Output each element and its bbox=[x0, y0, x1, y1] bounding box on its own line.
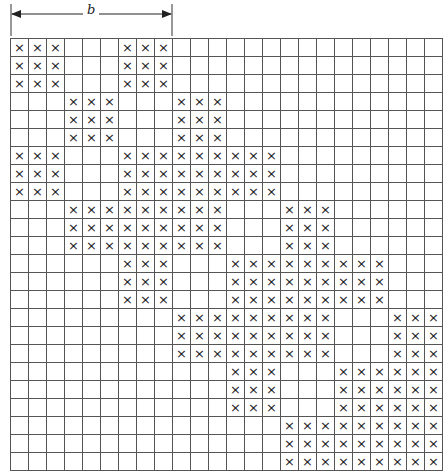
nonzero-cell: × bbox=[425, 363, 443, 381]
nonzero-cell: × bbox=[65, 219, 83, 237]
empty-cell bbox=[371, 39, 389, 57]
empty-cell bbox=[389, 273, 407, 291]
nonzero-cell: × bbox=[119, 291, 137, 309]
empty-cell bbox=[101, 453, 119, 471]
empty-cell bbox=[11, 399, 29, 417]
nonzero-cell: × bbox=[245, 309, 263, 327]
nonzero-cell: × bbox=[137, 183, 155, 201]
grid-row: ×××××××××××× bbox=[11, 291, 443, 309]
nonzero-cell: × bbox=[137, 291, 155, 309]
nonzero-cell: × bbox=[209, 93, 227, 111]
nonzero-cell: × bbox=[245, 381, 263, 399]
empty-cell bbox=[353, 39, 371, 57]
grid-row: ×××××××××××× bbox=[11, 201, 443, 219]
empty-cell bbox=[245, 417, 263, 435]
empty-cell bbox=[101, 291, 119, 309]
empty-cell bbox=[209, 381, 227, 399]
nonzero-cell: × bbox=[137, 273, 155, 291]
empty-cell bbox=[425, 219, 443, 237]
nonzero-cell: × bbox=[299, 327, 317, 345]
empty-cell bbox=[191, 291, 209, 309]
empty-cell bbox=[209, 291, 227, 309]
empty-cell bbox=[173, 381, 191, 399]
empty-cell bbox=[335, 129, 353, 147]
nonzero-cell: × bbox=[371, 255, 389, 273]
nonzero-cell: × bbox=[83, 201, 101, 219]
empty-cell bbox=[47, 111, 65, 129]
nonzero-cell: × bbox=[173, 309, 191, 327]
nonzero-cell: × bbox=[173, 327, 191, 345]
nonzero-cell: × bbox=[389, 399, 407, 417]
empty-cell bbox=[83, 309, 101, 327]
empty-cell bbox=[245, 237, 263, 255]
nonzero-cell: × bbox=[47, 75, 65, 93]
nonzero-cell: × bbox=[335, 291, 353, 309]
empty-cell bbox=[119, 381, 137, 399]
grid-row: ×××××× bbox=[11, 111, 443, 129]
nonzero-cell: × bbox=[317, 345, 335, 363]
empty-cell bbox=[137, 417, 155, 435]
empty-cell bbox=[407, 165, 425, 183]
empty-cell bbox=[65, 399, 83, 417]
empty-cell bbox=[191, 255, 209, 273]
empty-cell bbox=[29, 381, 47, 399]
empty-cell bbox=[281, 381, 299, 399]
nonzero-cell: × bbox=[353, 273, 371, 291]
empty-cell bbox=[317, 183, 335, 201]
nonzero-cell: × bbox=[173, 111, 191, 129]
empty-cell bbox=[173, 57, 191, 75]
empty-cell bbox=[191, 39, 209, 57]
empty-cell bbox=[83, 39, 101, 57]
nonzero-cell: × bbox=[137, 147, 155, 165]
empty-cell bbox=[65, 435, 83, 453]
nonzero-cell: × bbox=[227, 147, 245, 165]
nonzero-cell: × bbox=[317, 327, 335, 345]
nonzero-cell: × bbox=[11, 57, 29, 75]
empty-cell bbox=[173, 399, 191, 417]
nonzero-cell: × bbox=[227, 345, 245, 363]
empty-cell bbox=[407, 93, 425, 111]
empty-cell bbox=[47, 345, 65, 363]
empty-cell bbox=[299, 75, 317, 93]
nonzero-cell: × bbox=[101, 129, 119, 147]
empty-cell bbox=[317, 93, 335, 111]
empty-cell bbox=[335, 327, 353, 345]
empty-cell bbox=[371, 93, 389, 111]
empty-cell bbox=[245, 111, 263, 129]
empty-cell bbox=[191, 399, 209, 417]
empty-cell bbox=[83, 453, 101, 471]
empty-cell bbox=[371, 345, 389, 363]
empty-cell bbox=[389, 75, 407, 93]
grid-row: ×××××××××××× bbox=[11, 345, 443, 363]
empty-cell bbox=[173, 291, 191, 309]
empty-cell bbox=[65, 39, 83, 57]
nonzero-cell: × bbox=[119, 75, 137, 93]
nonzero-cell: × bbox=[335, 363, 353, 381]
empty-cell bbox=[83, 417, 101, 435]
empty-cell bbox=[65, 255, 83, 273]
nonzero-cell: × bbox=[191, 237, 209, 255]
nonzero-cell: × bbox=[227, 399, 245, 417]
empty-cell bbox=[389, 255, 407, 273]
empty-cell bbox=[407, 237, 425, 255]
empty-cell bbox=[137, 129, 155, 147]
nonzero-cell: × bbox=[137, 219, 155, 237]
empty-cell bbox=[389, 57, 407, 75]
empty-cell bbox=[65, 453, 83, 471]
empty-cell bbox=[173, 255, 191, 273]
empty-cell bbox=[29, 345, 47, 363]
empty-cell bbox=[389, 147, 407, 165]
nonzero-cell: × bbox=[317, 201, 335, 219]
empty-cell bbox=[407, 75, 425, 93]
empty-cell bbox=[263, 111, 281, 129]
empty-cell bbox=[335, 75, 353, 93]
empty-cell bbox=[65, 291, 83, 309]
empty-cell bbox=[281, 93, 299, 111]
empty-cell bbox=[101, 399, 119, 417]
nonzero-cell: × bbox=[281, 327, 299, 345]
nonzero-cell: × bbox=[407, 345, 425, 363]
nonzero-cell: × bbox=[245, 327, 263, 345]
nonzero-cell: × bbox=[281, 201, 299, 219]
nonzero-cell: × bbox=[191, 327, 209, 345]
nonzero-cell: × bbox=[101, 219, 119, 237]
